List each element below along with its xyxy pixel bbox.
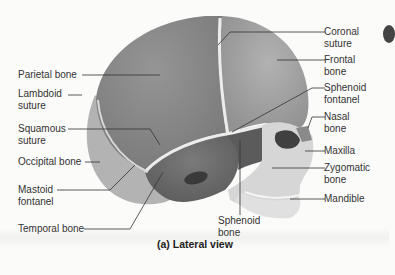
figure-caption: (a) Lateral view [157, 238, 233, 250]
label-sphenoid-bone: Sphenoid bone [218, 215, 260, 239]
label-frontal-bone: Frontal bone [324, 54, 355, 78]
label-mandible: Mandible [324, 193, 365, 205]
label-maxilla: Maxilla [324, 145, 355, 157]
frontal-bone-shape [220, 16, 308, 133]
label-coronal-suture: Coronal suture [324, 26, 359, 50]
label-mastoid-fontanel: Mastoid fontanel [18, 184, 54, 208]
page-edge-marker [383, 25, 395, 43]
label-zygomatic-bone: Zygomatic bone [324, 162, 370, 186]
label-squamous-suture: Squamous suture [18, 123, 66, 147]
label-lambdoid-suture: Lambdoid suture [18, 88, 62, 112]
label-occipital-bone: Occipital bone [18, 156, 81, 168]
label-sphenoid-fontanel: Sphenoid fontanel [324, 82, 366, 106]
label-temporal-bone: Temporal bone [18, 223, 84, 235]
label-nasal-bone: Nasal bone [324, 111, 350, 135]
label-parietal-bone: Parietal bone [18, 69, 77, 81]
